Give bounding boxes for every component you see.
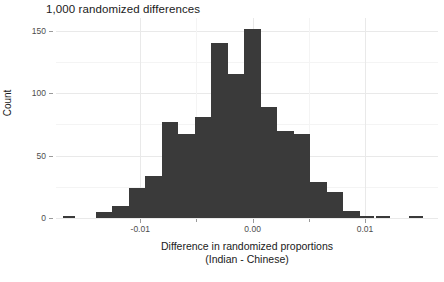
histogram-figure: 1,000 randomized differences 050100150 -… [0, 0, 444, 282]
y-axis-title: Count [2, 90, 13, 117]
x-axis-title-line1: Difference in randomized proportions [161, 240, 333, 252]
x-tick-mark-minor [309, 219, 310, 222]
x-tick-label: 0.00 [244, 224, 261, 234]
x-tick-mark [365, 219, 366, 223]
x-tick-mark [140, 219, 141, 223]
x-tick-mark [253, 219, 254, 223]
x-axis-title-line2: (Indian - Chinese) [56, 253, 438, 266]
x-tick-mark-minor [196, 219, 197, 222]
x-tick-label: -0.01 [131, 224, 150, 234]
x-tick-label: 0.01 [357, 224, 374, 234]
x-axis-title: Difference in randomized proportions (In… [56, 240, 438, 266]
